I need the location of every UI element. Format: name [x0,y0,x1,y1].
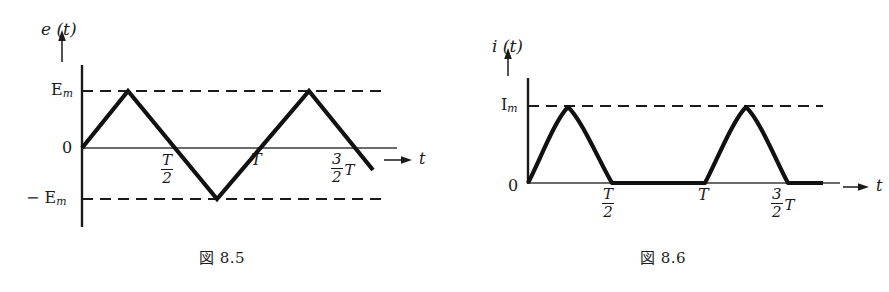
figure-pair-container: e (t) Em 0 − Em T 2 T 3 2 T t 図 8.5 i (t… [0,0,889,292]
fig85-origin-label-text: 0 [62,138,72,157]
fig85-peak-label-subscript: m [63,87,73,100]
fig86-y-axis-label: i (t) [492,38,523,55]
fig86-peak-label-subscript: m [507,102,517,115]
fig86-xtick-three-halves-t: 3 2 T [771,187,795,220]
fig86-xtick-t-over-2: T 2 [602,187,614,220]
fig85-y-axis-label: e (t) [41,21,77,38]
fig85-xtick-t-over-2: T 2 [161,153,173,186]
fig86-waveform-rectified-sine [528,107,823,183]
fig86-x-axis-label-text: t [876,176,882,195]
fig85-caption: 図 8.5 [199,246,245,267]
fig85-xtick-three-halves-t-numerator: 3 [331,152,343,169]
fig85-y-axis-label-text: e (t) [41,19,77,39]
fig86-peak-label: Im [501,97,518,115]
fig86-caption: 図 8.6 [640,246,686,267]
fig86-xtick-three-halves-t-numerator: 3 [771,187,783,204]
fig86-xtick-three-halves-t-variable: T [783,195,795,213]
fig86-x-axis-arrowhead [858,183,869,191]
fig85-xtick-t-over-2-numerator: T [161,153,173,170]
fig86-xtick-three-halves-t-fraction: 3 2 [771,187,783,220]
fig86-origin-label-text: 0 [508,176,518,195]
fig85-x-axis-label: t [419,151,425,167]
fig85-xtick-three-halves-t-denominator: 2 [331,169,343,185]
fig86-origin-label: 0 [508,178,518,194]
fig85-peak-label-symbol: E [51,80,63,99]
fig86-y-axis-label-text: i (t) [492,36,523,56]
fig85-x-axis-arrowhead [401,156,412,164]
fig85-xtick-t: T [251,152,262,168]
fig86-x-axis-label: t [876,178,882,194]
fig86-xtick-t-over-2-denominator: 2 [602,204,614,220]
figure-8-5-plot [0,0,889,292]
fig85-trough-label-subscript: m [56,195,66,208]
fig85-caption-text: 図 8.5 [199,249,245,267]
fig85-xtick-t-over-2-denominator: 2 [161,170,173,186]
fig86-xtick-three-halves-t-denominator: 2 [771,204,783,220]
fig85-xtick-three-halves-t-variable: T [343,160,355,178]
fig85-x-axis-label-text: t [419,149,425,168]
fig85-trough-label: − Em [26,190,66,208]
fig86-caption-text: 図 8.6 [640,249,686,267]
fig86-xtick-t-text: T [698,185,709,204]
fig85-origin-label: 0 [62,140,72,156]
fig85-trough-label-symbol: − E [26,188,56,207]
fig85-waveform-triangular [82,91,373,199]
fig85-xtick-three-halves-t-fraction: 3 2 [331,152,343,185]
fig85-peak-label: Em [51,82,73,100]
fig85-xtick-three-halves-t: 3 2 T [331,152,355,185]
fig86-xtick-t-over-2-numerator: T [602,187,614,204]
fig85-xtick-t-text: T [251,150,262,169]
fig86-xtick-t: T [698,187,709,203]
